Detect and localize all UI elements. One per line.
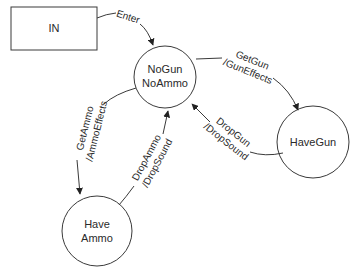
node-in-label: IN	[49, 22, 60, 34]
state-diagram: IN NoGun NoAmmo HaveGun Have Ammo Enter …	[0, 0, 356, 273]
node-haveammo-label-line1: Have	[84, 218, 110, 230]
edge-dropgun: DropGun /DropSound	[192, 104, 283, 162]
node-haveammo: Have Ammo	[62, 196, 132, 266]
node-havegun-label: HaveGun	[290, 136, 336, 148]
node-nogun-noammo: NoGun NoAmmo	[134, 46, 196, 108]
node-nogun-label-line2: NoAmmo	[142, 77, 188, 89]
edge-enter-label: Enter	[115, 8, 142, 26]
node-haveammo-label-line2: Ammo	[81, 232, 113, 244]
node-in: IN	[11, 7, 97, 50]
node-havegun: HaveGun	[277, 106, 349, 178]
node-nogun-label-line1: NoGun	[148, 63, 183, 75]
edge-getammo: GetAmmo /AmmoEffects	[72, 88, 136, 194]
edge-dropammo: DropAmmo /DropSound	[119, 111, 174, 205]
edge-getgun: GetGun /GunEffects	[196, 45, 298, 110]
edge-enter: Enter	[97, 8, 153, 45]
